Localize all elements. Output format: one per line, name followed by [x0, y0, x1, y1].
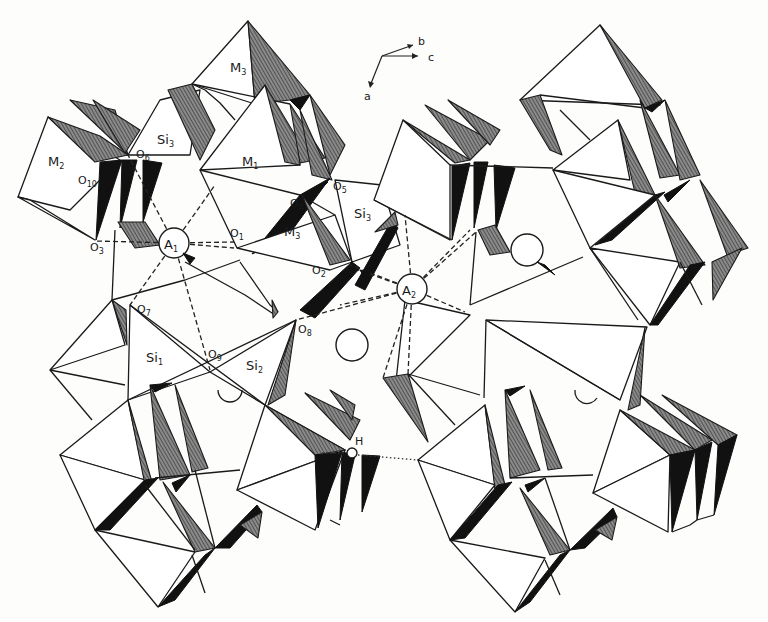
hydrogen-site [347, 448, 357, 458]
axis-b-label: b [418, 35, 425, 48]
right-upper-cluster [374, 25, 748, 325]
axis-c-label: c [428, 51, 434, 64]
label-o9: O9 [208, 348, 222, 363]
axis-a-label: a [364, 90, 371, 103]
lower-left-cluster [60, 383, 418, 607]
left-upper-cluster [18, 21, 400, 318]
axis-indicator: b c a [364, 35, 434, 103]
void-site-center [336, 329, 368, 361]
label-h: H [355, 435, 363, 448]
crystal-structure-figure: b c a [0, 0, 768, 622]
polyhedra-drawing: b c a [0, 0, 768, 622]
label-m3-mid: M3 [284, 224, 300, 241]
label-o8: O8 [298, 323, 312, 338]
label-o7: O7 [137, 303, 151, 318]
label-o1: O1 [230, 227, 244, 242]
void-site-right [511, 234, 543, 266]
lower-right-cluster [418, 386, 737, 612]
label-o3: O3 [90, 241, 104, 256]
